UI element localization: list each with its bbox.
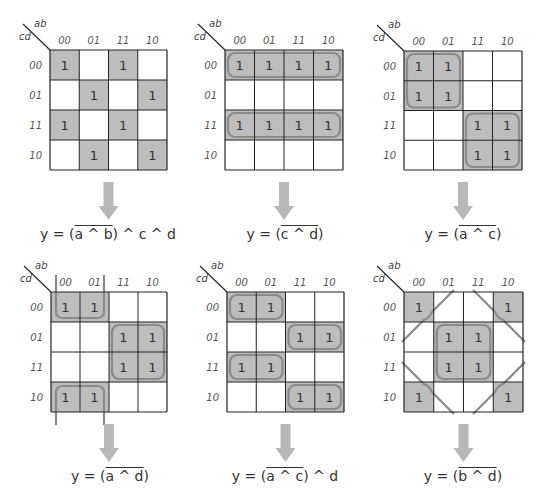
equation-negated-term: c ^ d [281,226,318,242]
down-arrow-icon [99,182,119,220]
equation-suffix: ) [496,226,501,242]
kmap-1: 111111110001111000011110abcd [19,18,167,220]
corner-label-cd: cd [196,273,208,284]
kmap-cell-value: 1 [474,330,482,345]
row-label: 00 [29,60,42,71]
equation-suffix: ) [318,226,323,242]
kmap-cell-value: 1 [415,300,423,315]
kmap-cell-value: 1 [295,58,303,73]
equation-map-5: y = (a ^ c) ^ d [232,468,338,484]
column-label: 11 [294,277,307,288]
row-label: 00 [383,302,396,313]
kmap-4: 111111110001111000011110abcd [20,260,167,462]
corner-label-ab: ab [388,260,400,271]
equation-negated-term: a ^ c [266,468,303,484]
kmap-cell-value: 1 [119,58,127,73]
column-label: 01 [263,35,276,46]
kmap-cell-value: 1 [119,118,127,133]
equation-suffix: ) ^ c ^ d [113,226,176,242]
equation-map-6: y = (b ^ d) [424,468,502,484]
column-label: 00 [59,277,72,288]
corner-label-cd: cd [373,273,385,284]
corner-label-ab: ab [34,18,46,29]
row-label: 00 [206,302,219,313]
column-label: 11 [471,36,484,47]
column-label: 11 [117,35,130,46]
kmap-cell-value: 1 [474,148,482,163]
down-arrow-icon [454,424,474,462]
column-label: 00 [233,35,246,46]
corner-label-cd: cd [373,32,385,43]
row-label: 11 [204,120,217,131]
equation-map-4: y = (a ^ d) [71,468,149,484]
equation-prefix: y = ( [71,468,105,484]
kmap-cell-value: 1 [415,390,423,405]
corner-label-ab: ab [388,19,400,30]
row-label: 01 [30,332,43,343]
row-label: 11 [383,362,396,373]
kmap-cell-value: 1 [237,360,245,375]
column-label: 11 [117,277,130,288]
row-label: 10 [204,150,217,161]
row-label: 00 [204,60,217,71]
row-label: 00 [30,302,43,313]
kmap-cell-value: 1 [60,118,68,133]
row-label: 11 [30,362,43,373]
kmap-cell-value: 1 [148,148,156,163]
row-label: 10 [383,392,396,403]
column-label: 10 [501,36,514,47]
kmap-cell-value: 1 [237,300,245,315]
kmap-cell-value: 1 [60,58,68,73]
equation-map-2: y = (c ^ d) [246,226,323,242]
kmap-6: 111111110001111000011110abcd [373,260,525,462]
equation-map-1: y = (a ^ b) ^ c ^ d [40,226,176,242]
equation-negated-term: a ^ d [105,468,143,484]
column-label: 11 [472,277,485,288]
column-label: 01 [442,277,455,288]
kmap-cell-value: 1 [444,330,452,345]
column-label: 00 [412,36,425,47]
kmap-cell-value: 1 [503,118,511,133]
kmap-cell-value: 1 [236,58,244,73]
kmap-cell-value: 1 [61,390,69,405]
column-label: 00 [235,277,248,288]
row-label: 11 [206,362,219,373]
kmap-canvas: 111111110001111000011110abcd111111110001… [0,0,545,499]
column-label: 00 [58,35,71,46]
down-arrow-icon [99,424,119,462]
kmap-cell-value: 1 [119,330,127,345]
column-label: 10 [146,277,159,288]
column-label: 10 [502,277,515,288]
kmap-cell-value: 1 [325,390,333,405]
kmap-cell-value: 1 [444,59,452,74]
corner-label-ab: ab [209,18,221,29]
equation-map-3: y = (a ^ c) [425,226,502,242]
kmap-cell-value: 1 [90,88,98,103]
kmap-cell-value: 1 [415,59,423,74]
equation-negated-term: a ^ b [74,226,112,242]
kmap-cell-value: 1 [148,330,156,345]
kmap-cell-value: 1 [444,89,452,104]
column-label: 01 [88,35,101,46]
kmap-cell-value: 1 [90,300,98,315]
kmap-cell-value: 1 [415,89,423,104]
row-label: 11 [29,120,42,131]
row-label: 01 [29,90,42,101]
kmap-3: 111111110001111000011110abcd [373,19,522,220]
row-label: 01 [206,332,219,343]
kmap-cell-value: 1 [324,118,332,133]
kmap-cell-value: 1 [444,360,452,375]
row-label: 01 [383,91,396,102]
equation-prefix: y = ( [40,226,74,242]
corner-label-ab: ab [211,260,223,271]
equation-suffix: ) ^ d [303,468,338,484]
kmap-cell-value: 1 [267,300,275,315]
corner-label-ab: ab [35,260,47,271]
equation-suffix: ) [144,468,149,484]
kmap-cell-value: 1 [325,330,333,345]
corner-label-cd: cd [20,273,32,284]
column-label: 10 [146,35,159,46]
equation-prefix: y = ( [424,468,458,484]
column-label: 11 [292,35,305,46]
corner-label-cd: cd [19,31,31,42]
